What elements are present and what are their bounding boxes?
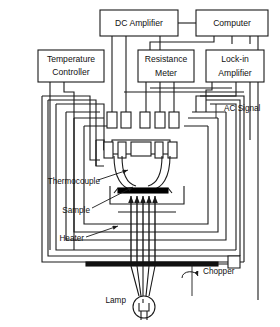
label-temperature-controller-line1: Temperature: [47, 54, 95, 64]
feedthrough-slots: [107, 112, 179, 128]
lamp-bulb: [133, 296, 155, 318]
label-computer: Computer: [213, 18, 251, 28]
label-resistance-meter-line2: Meter: [155, 68, 177, 78]
apparatus-diagram: DC Amplifier Computer Temperature Contro…: [0, 0, 280, 327]
label-lock-in-amplifier-line1: Lock-in: [221, 54, 249, 64]
chopper-blade: [86, 262, 218, 266]
label-sample: Sample: [62, 206, 90, 215]
label-chopper: Chopper: [203, 267, 235, 276]
diagram-canvas: DC Amplifier Computer Temperature Contro…: [0, 0, 280, 327]
label-temperature-controller-line2: Controller: [52, 67, 89, 77]
label-lamp: Lamp: [106, 296, 127, 305]
sample-holder: [104, 140, 177, 193]
label-thermocouple: Thermocouple: [48, 177, 101, 186]
label-resistance-meter-line1: Resistance: [145, 54, 188, 64]
label-ac-signal: AC Signal: [224, 104, 261, 113]
annotation-labels: AC Signal Thermocouple Sample Heater Cho…: [48, 104, 261, 305]
label-heater: Heater: [59, 234, 84, 243]
label-dc-amplifier: DC Amplifier: [115, 18, 163, 28]
label-leaders: [86, 104, 216, 237]
lamp-assembly: [131, 266, 155, 320]
label-lock-in-amplifier-line2: Amplifier: [218, 68, 252, 78]
